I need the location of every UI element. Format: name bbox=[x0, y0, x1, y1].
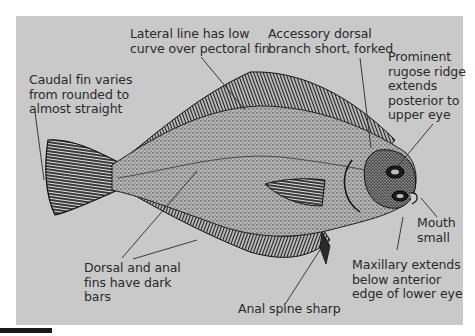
mouth bbox=[410, 193, 417, 204]
corner-bar bbox=[0, 328, 52, 333]
label-mouth: Mouth small bbox=[417, 216, 456, 245]
label-fins-dark-bars: Dorsal and anal fins have dark bars bbox=[84, 261, 181, 305]
label-lateral-line: Lateral line has low curve over pectoral… bbox=[130, 27, 270, 56]
caudal-fin bbox=[46, 140, 118, 215]
label-rugose-ridge: Prominent rugose ridge extends posterior… bbox=[388, 50, 466, 123]
label-anal-spine: Anal spine sharp bbox=[238, 302, 341, 317]
label-accessory-dorsal: Accessory dorsal branch short, forked bbox=[268, 27, 393, 56]
label-caudal-fin: Caudal fin varies from rounded to almost… bbox=[29, 73, 132, 117]
label-maxillary: Maxillary extends below anterior edge of… bbox=[352, 258, 462, 302]
